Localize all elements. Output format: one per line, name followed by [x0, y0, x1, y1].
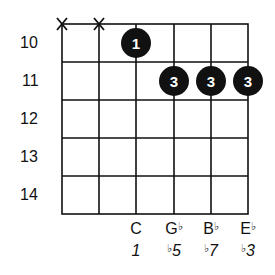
fret-number-label: 10	[20, 34, 60, 52]
finger-dot: 1	[121, 28, 151, 58]
fret-number-label: 11	[22, 72, 62, 90]
finger-number: 3	[207, 73, 215, 90]
interval-degree: ♭7	[196, 242, 226, 260]
interval-degree: 1	[121, 242, 151, 260]
fret-number-label: 12	[20, 110, 60, 128]
finger-dot: 3	[159, 66, 189, 96]
note-name: B♭	[196, 220, 226, 238]
interval-degree: ♭3	[233, 242, 263, 260]
fretboard-grid	[62, 24, 248, 214]
fretboard-outline	[62, 24, 248, 214]
note-name: G♭	[159, 220, 189, 238]
fret-number-label: 14	[20, 186, 60, 204]
note-name: C	[121, 220, 151, 238]
finger-number: 1	[132, 35, 140, 52]
fret-number-label: 13	[20, 148, 60, 166]
finger-dot: 3	[196, 66, 226, 96]
finger-number: 3	[170, 73, 178, 90]
finger-number: 3	[244, 73, 252, 90]
note-name: E♭	[233, 220, 263, 238]
finger-dot: 3	[233, 66, 263, 96]
interval-degree: ♭5	[159, 242, 189, 260]
